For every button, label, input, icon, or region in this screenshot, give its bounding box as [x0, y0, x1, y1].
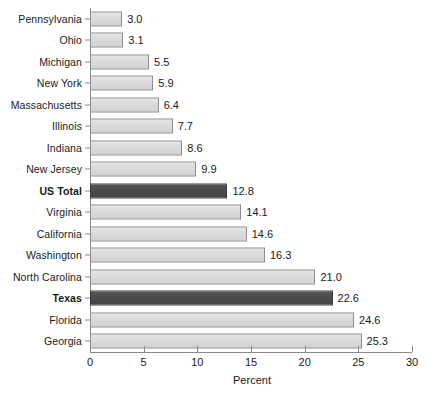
bar-row: Indiana8.6 [0, 137, 430, 158]
x-axis-title: Percent [0, 374, 430, 386]
bar-row: Michigan5.5 [0, 51, 430, 72]
category-label: Florida [49, 314, 82, 326]
bar [90, 119, 173, 134]
bar [90, 162, 196, 177]
bar-value-label: 9.9 [201, 163, 216, 175]
bar [90, 97, 159, 112]
x-axis-tick [90, 346, 91, 352]
bar [90, 334, 362, 349]
x-axis-tick [412, 346, 413, 352]
bar-value-label: 24.6 [359, 314, 380, 326]
bar-chart: Pennsylvania3.0Ohio3.1Michigan5.5New Yor… [0, 0, 430, 398]
category-label: California [37, 228, 82, 240]
bar-value-label: 21.0 [320, 271, 341, 283]
category-label: Texas [53, 292, 83, 304]
bar [90, 226, 247, 241]
category-label: Washington [26, 249, 82, 261]
category-label: Illinois [52, 120, 82, 132]
category-label: Ohio [59, 34, 82, 46]
x-axis-tick-label: 5 [141, 356, 147, 368]
bar [90, 33, 123, 48]
category-label: North Carolina [13, 271, 82, 283]
bar-row: Georgia25.3 [0, 331, 430, 352]
bar-row: Illinois7.7 [0, 116, 430, 137]
category-label: US Total [39, 185, 82, 197]
bar-row: Florida24.6 [0, 309, 430, 330]
bar-value-label: 16.3 [270, 249, 291, 261]
bar [90, 11, 122, 26]
bar-value-label: 5.5 [154, 56, 169, 68]
x-axis-tick-label: 15 [245, 356, 257, 368]
x-axis-line [90, 352, 412, 353]
x-axis-tick-label: 30 [406, 356, 418, 368]
bar-value-label: 12.8 [232, 185, 253, 197]
category-label: New York [37, 77, 82, 89]
category-label: Georgia [44, 335, 82, 347]
x-axis-tick [358, 346, 359, 352]
x-axis-tick [305, 346, 306, 352]
bar [90, 269, 315, 284]
x-axis-tick [197, 346, 198, 352]
x-axis-title-text: Percent [233, 374, 271, 386]
x-axis-tick-label: 0 [87, 356, 93, 368]
bar-row: Massachusetts6.4 [0, 94, 430, 115]
plot-area: Pennsylvania3.0Ohio3.1Michigan5.5New Yor… [0, 0, 430, 398]
bar-value-label: 8.6 [187, 142, 202, 154]
bar [90, 205, 241, 220]
bar [90, 54, 149, 69]
category-label: Virginia [46, 206, 82, 218]
bar-row: US Total12.8 [0, 180, 430, 201]
bar [90, 76, 153, 91]
bar-row: New Jersey9.9 [0, 159, 430, 180]
bar-value-label: 5.9 [158, 77, 173, 89]
bar-value-label: 3.0 [127, 13, 142, 25]
x-axis-tick-label: 20 [299, 356, 311, 368]
bar-value-label: 14.6 [252, 228, 273, 240]
category-label: New Jersey [26, 163, 82, 175]
category-label: Massachusetts [11, 99, 82, 111]
bar-row: North Carolina21.0 [0, 266, 430, 287]
x-axis-tick [251, 346, 252, 352]
bar-row: California14.6 [0, 223, 430, 244]
bar [90, 291, 333, 306]
bar-value-label: 22.6 [338, 292, 359, 304]
bar-row: Ohio3.1 [0, 30, 430, 51]
bar-row: Virginia14.1 [0, 202, 430, 223]
bar [90, 140, 182, 155]
bar-row: Pennsylvania3.0 [0, 8, 430, 29]
x-axis-tick-label: 25 [352, 356, 364, 368]
bar-value-label: 14.1 [246, 206, 267, 218]
x-axis-tick-label: 10 [191, 356, 203, 368]
bar-value-label: 6.4 [164, 99, 179, 111]
bar-row: New York5.9 [0, 73, 430, 94]
bar-value-label: 3.1 [128, 34, 143, 46]
bar-value-label: 25.3 [367, 335, 388, 347]
bar [90, 312, 354, 327]
bar-row: Texas22.6 [0, 288, 430, 309]
x-axis-tick [144, 346, 145, 352]
category-label: Michigan [39, 56, 82, 68]
bar-row: Washington16.3 [0, 245, 430, 266]
category-label: Indiana [47, 142, 82, 154]
bar [90, 248, 265, 263]
bar-value-label: 7.7 [178, 120, 193, 132]
category-label: Pennsylvania [18, 13, 82, 25]
bar [90, 183, 227, 198]
